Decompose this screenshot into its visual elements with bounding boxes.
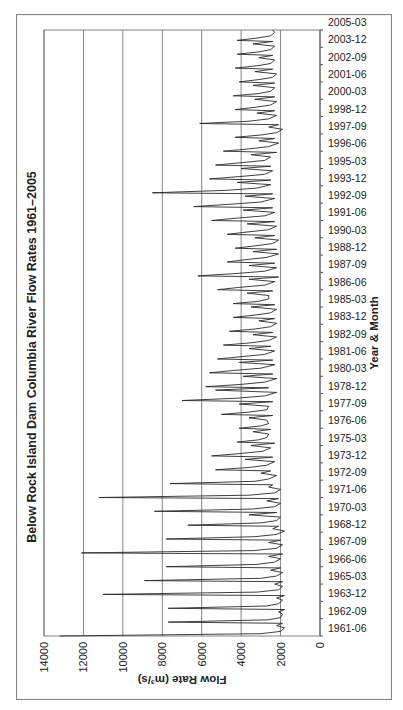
y-tick-label: 14000 [38,642,50,673]
x-tick-label: 1967-09 [328,535,367,547]
x-tick-label: 1978-12 [328,380,367,392]
x-tick-label: 1962-09 [328,605,367,617]
x-tick-label: 2005-03 [328,16,367,28]
x-tick-label: 1985-03 [328,293,367,305]
x-axis-label: Year & Month [368,296,380,369]
y-tick-label: 6000 [196,642,208,666]
y-tick-label: 10000 [117,642,129,673]
x-tick-label: 1977-09 [328,397,367,409]
x-tick-label: 1970-03 [328,501,367,513]
x-tick-label: 1966-06 [328,553,367,565]
y-tick-label: 8000 [156,642,168,666]
x-tick-label: 1991-06 [328,206,367,218]
x-tick-label: 1972-09 [328,466,367,478]
x-tick-label: 2000-03 [328,85,367,97]
x-tick-label: 1971-06 [328,483,367,495]
x-tick-label: 1965-03 [328,570,367,582]
x-tick-label: 1980-03 [328,362,367,374]
flow-rate-chart: Below Rock Island Dam Columbia River Flo… [16,14,392,700]
x-tick-label: 1988-12 [328,241,367,253]
y-tick-label: 2000 [275,642,287,666]
x-tick-label: 1981-06 [328,345,367,357]
x-tick-label: 1992-09 [328,189,367,201]
x-tick-label: 1996-06 [328,137,367,149]
x-tick-label: 1993-12 [328,172,367,184]
y-axis-label: Flow Rate (m³/s) [137,674,226,686]
y-tick-label: 4000 [235,642,247,666]
x-tick-label: 1976-06 [328,414,367,426]
x-tick-label: 1975-03 [328,432,367,444]
x-tick-label: 1986-06 [328,276,367,288]
y-tick-label: 0 [314,642,326,648]
x-tick-label: 2002-09 [328,51,367,63]
x-tick-label: 1963-12 [328,587,367,599]
x-tick-label: 1998-12 [328,103,367,115]
x-tick-label: 1990-03 [328,224,367,236]
x-tick-label: 1997-09 [328,120,367,132]
x-tick-label: 1995-03 [328,155,367,167]
x-tick-label: 1973-12 [328,449,367,461]
y-tick-label: 12000 [77,642,89,673]
chart-title: Below Rock Island Dam Columbia River Flo… [25,171,39,543]
x-tick-label: 1982-09 [328,328,367,340]
x-tick-label: 2001-06 [328,68,367,80]
x-tick-label: 1961-06 [328,622,367,634]
x-tick-label: 1987-09 [328,258,367,270]
x-tick-label: 2003-12 [328,33,367,45]
x-tick-label: 1968-12 [328,518,367,530]
x-tick-label: 1983-12 [328,310,367,322]
